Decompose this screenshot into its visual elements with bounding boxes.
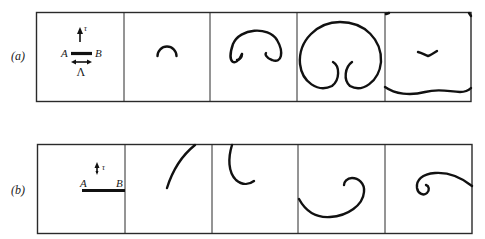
double-arrow-icon: [71, 60, 92, 65]
point-b-label: B: [116, 177, 123, 189]
corner-mark-left: [386, 13, 389, 14]
wavy-sheet-curve: [385, 87, 471, 94]
point-b-label: B: [95, 47, 102, 59]
horseshoe-curve: [231, 31, 282, 63]
row-b-panel-4: [299, 178, 364, 217]
tau-label: τ: [84, 24, 88, 33]
arc-curve: [158, 47, 177, 57]
row-b-panel-5: [417, 173, 472, 194]
chevron-curve: [418, 51, 437, 56]
corner-mark-right: [469, 13, 471, 16]
row-b-panel-3: [229, 145, 254, 184]
row-a-panel-1: τ A B Λ: [60, 24, 102, 79]
row-a: τ A B Λ: [37, 13, 472, 102]
lambda-label: Λ: [77, 65, 86, 79]
row-b: τ A B: [38, 145, 473, 234]
figure: (a) (b) τ A B: [0, 0, 485, 239]
point-a-label: A: [60, 47, 68, 59]
figure-canvas: τ A B Λ: [0, 0, 485, 239]
row-a-panel-5: [385, 13, 471, 94]
loop-curve: [300, 22, 381, 88]
hook-curve: [229, 145, 254, 184]
row-a-panel-3: [231, 31, 282, 63]
row-a-panel-2: [158, 47, 177, 57]
row-b-panel-2: [167, 145, 195, 188]
rising-arc-curve: [167, 145, 195, 188]
row-b-panel-1: τ A B: [79, 162, 125, 191]
spiral-curve: [299, 178, 364, 217]
velocity-arrow-icon: [95, 162, 100, 175]
velocity-arrow-icon: [77, 27, 83, 42]
tau-label: τ: [102, 163, 106, 172]
point-a-label: A: [79, 177, 87, 189]
row-a-panel-4: [300, 22, 381, 88]
tight-spiral-curve: [417, 173, 472, 194]
